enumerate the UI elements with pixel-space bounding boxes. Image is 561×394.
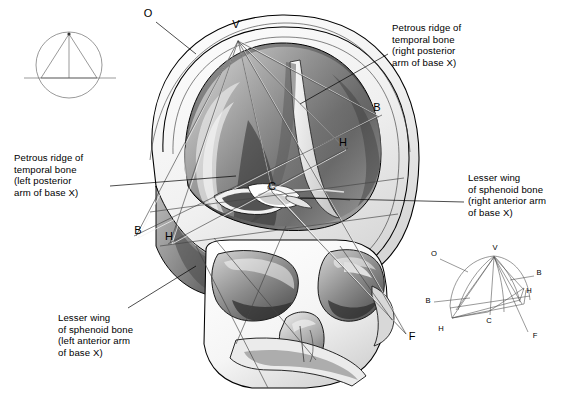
- circle-diagram: [24, 32, 116, 98]
- key-marker-O: O: [431, 249, 437, 258]
- key-marker-B-left: B: [425, 296, 430, 305]
- key-marker-H-right: H: [526, 286, 531, 295]
- key-marker-F: F: [533, 331, 538, 340]
- key-marker-C: C: [486, 316, 492, 325]
- caption-petrous-ridge-right: Petrous ridge of temporal bone (right po…: [392, 22, 512, 68]
- key-marker-B-right: B: [536, 268, 541, 277]
- marker-B-left: B: [134, 224, 141, 236]
- key-diagram: O V B H B C H F: [425, 243, 541, 340]
- caption-petrous-ridge-left: Petrous ridge of temporal bone (left pos…: [14, 152, 144, 198]
- marker-O: O: [144, 7, 153, 19]
- key-marker-V: V: [492, 243, 498, 252]
- marker-C: C: [268, 180, 276, 192]
- marker-H-right: H: [339, 136, 347, 148]
- key-marker-H-left: H: [438, 324, 443, 333]
- caption-lesser-wing-right: Lesser wing of sphenoid bone (right ante…: [468, 172, 561, 218]
- marker-V: V: [232, 18, 240, 30]
- marker-H-left: H: [165, 230, 173, 242]
- illustration-canvas: O V B H C B H F: [0, 0, 561, 394]
- marker-B-right: B: [373, 101, 380, 113]
- marker-F: F: [409, 330, 416, 342]
- caption-lesser-wing-left: Lesser wing of sphenoid bone (left anter…: [58, 312, 178, 358]
